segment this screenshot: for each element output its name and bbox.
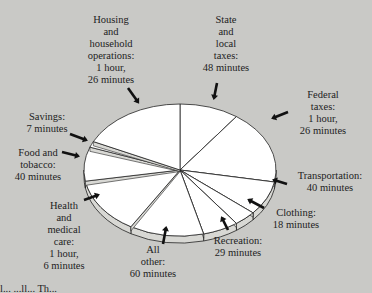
label-transportation: Transportation: 40 minutes [290, 170, 370, 194]
pointer-arrow-icon [70, 134, 88, 142]
pointer-arrow-icon [128, 88, 139, 104]
label-food-tobacco: Food and tobacco: 40 minutes [6, 147, 70, 183]
label-savings: Savings: 7 minutes [18, 111, 76, 135]
chart-stage: Housing and household operations: 1 hour… [0, 0, 372, 293]
caption-text: l... ...ll... Th... [0, 283, 57, 293]
pointer-arrow-icon [271, 112, 288, 120]
label-all-other: All other: 60 minutes [122, 244, 184, 280]
label-recreation: Recreation: 29 minutes [202, 235, 274, 259]
label-state-local-taxes: State and local taxes: 48 minutes [196, 14, 256, 74]
label-clothing: Clothing: 18 minutes [264, 207, 328, 231]
pointer-arrow-icon [211, 83, 218, 100]
label-federal-taxes: Federal taxes: 1 hour, 26 minutes [288, 89, 358, 137]
label-housing: Housing and household operations: 1 hour… [78, 14, 144, 86]
label-health: Health and medical care: 1 hour, 6 minut… [34, 200, 94, 272]
